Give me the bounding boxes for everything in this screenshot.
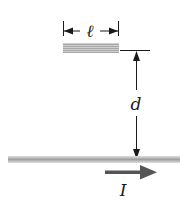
current-label: I (119, 180, 127, 200)
arrow-left-icon (64, 28, 73, 35)
current-direction-arrow (105, 165, 157, 180)
short-wire (63, 43, 119, 53)
long-wire (8, 156, 180, 163)
length-label: ℓ (86, 21, 93, 41)
arrow-up-icon (133, 51, 140, 61)
arrow-right-icon (140, 165, 157, 180)
wire-diagram: ℓ d I (0, 0, 186, 215)
arrow-right-icon (109, 28, 118, 35)
distance-label: d (131, 94, 142, 114)
